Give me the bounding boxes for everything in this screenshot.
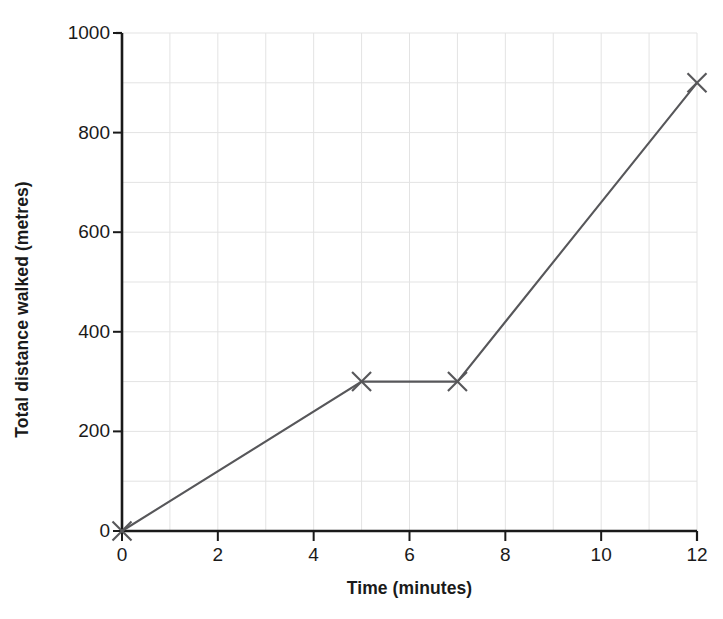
y-axis-tick-marks — [113, 33, 122, 531]
axis-spines — [116, 33, 697, 541]
distance-time-graph: Total distance walked (metres) Time (min… — [0, 0, 723, 619]
plot-area — [0, 0, 723, 619]
x-axis-tick-marks — [122, 531, 697, 541]
